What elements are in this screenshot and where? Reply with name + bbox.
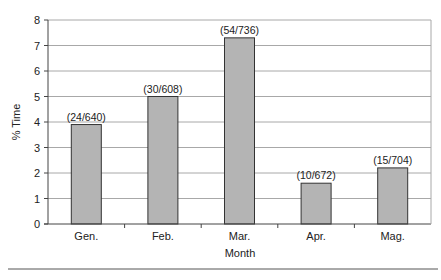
bar-annotation: (15/704) <box>373 154 412 166</box>
x-tick-label: Mag. <box>380 230 404 242</box>
x-tick-label: Mar. <box>229 230 250 242</box>
bar-annotation: (24/640) <box>67 111 106 123</box>
bar-chart: 012345678 (24/640)(30/608)(54/736)(10/67… <box>0 0 441 280</box>
y-tick-label: 4 <box>34 116 40 128</box>
x-axis-ticks: Gen.Feb.Mar.Apr.Mag. <box>74 224 405 242</box>
x-tick-label: Feb. <box>152 230 174 242</box>
y-tick-label: 0 <box>34 218 40 230</box>
bars: (24/640)(30/608)(54/736)(10/672)(15/704) <box>67 24 413 224</box>
y-tick-label: 8 <box>34 14 40 26</box>
bar-mar <box>225 38 255 224</box>
bar-feb <box>148 97 178 225</box>
y-tick-label: 2 <box>34 167 40 179</box>
bar-gen <box>71 125 101 224</box>
y-tick-label: 1 <box>34 193 40 205</box>
bar-mag <box>378 168 408 224</box>
x-axis-title: Month <box>225 247 256 259</box>
y-tick-label: 3 <box>34 142 40 154</box>
y-tick-label: 5 <box>34 91 40 103</box>
bar-annotation: (54/736) <box>220 24 259 36</box>
bar-annotation: (10/672) <box>297 169 336 181</box>
x-tick-label: Apr. <box>306 230 326 242</box>
bar-annotation: (30/608) <box>143 83 182 95</box>
y-axis-ticks: 012345678 <box>34 14 48 230</box>
y-axis-title: % Time <box>10 104 22 141</box>
bar-apr <box>301 183 331 224</box>
y-tick-label: 6 <box>34 65 40 77</box>
x-tick-label: Gen. <box>74 230 98 242</box>
y-tick-label: 7 <box>34 40 40 52</box>
